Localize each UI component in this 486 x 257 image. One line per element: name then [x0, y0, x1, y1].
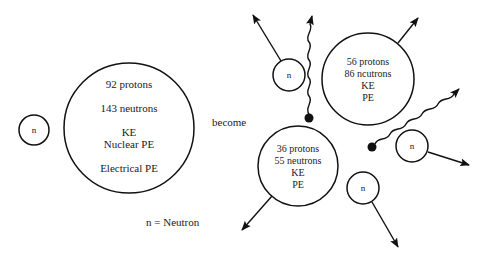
product-a-protons: 56 protons	[347, 56, 390, 67]
arrow-icon	[398, 18, 418, 43]
incoming-neutron: n	[19, 115, 49, 145]
product-b-ke: KE	[291, 167, 304, 178]
released-neutron-3: n	[347, 172, 398, 247]
released-neutron-1: n	[253, 15, 305, 91]
svg-text:n: n	[361, 183, 366, 193]
become-label: become	[212, 116, 246, 128]
parent-electrical-pe: Electrical PE	[100, 162, 158, 174]
product-nucleus-b: 36 protons 55 neutrons KE PE	[242, 126, 338, 230]
gamma-ray-1	[305, 16, 314, 123]
parent-protons: 92 protons	[106, 78, 153, 90]
arrow-icon	[372, 202, 398, 247]
parent-ke: KE	[122, 126, 137, 138]
product-a-ke: KE	[361, 80, 374, 91]
gamma-source-dot	[305, 114, 314, 123]
svg-text:n: n	[287, 70, 292, 80]
arrow-icon	[253, 15, 281, 61]
parent-nucleus: 92 protons 143 neutrons KE Nuclear PE El…	[64, 63, 194, 193]
product-a-neutrons: 86 ncutrons	[345, 68, 392, 79]
fission-diagram: n 92 protons 143 neutrons KE Nuclear PE …	[0, 0, 486, 257]
wavy-arrow-icon	[375, 89, 459, 144]
legend-label: n = Neutron	[146, 216, 200, 228]
product-b-neutrons: 55 neutrons	[275, 155, 322, 166]
arrow-icon	[428, 152, 469, 165]
arrow-icon	[242, 196, 272, 230]
product-b-protons: 36 protons	[277, 143, 320, 154]
neutron-label: n	[32, 125, 37, 135]
product-b-pe: PE	[292, 179, 304, 190]
parent-nuclear-pe: Nuclear PE	[104, 138, 155, 150]
parent-neutrons: 143 neutrons	[100, 102, 157, 114]
product-a-pe: PE	[362, 92, 374, 103]
wavy-arrow-icon	[308, 16, 312, 114]
released-neutron-2: n	[396, 130, 469, 165]
product-nucleus-a: 56 protons 86 ncutrons KE PE	[322, 18, 418, 125]
svg-text:n: n	[410, 141, 415, 151]
